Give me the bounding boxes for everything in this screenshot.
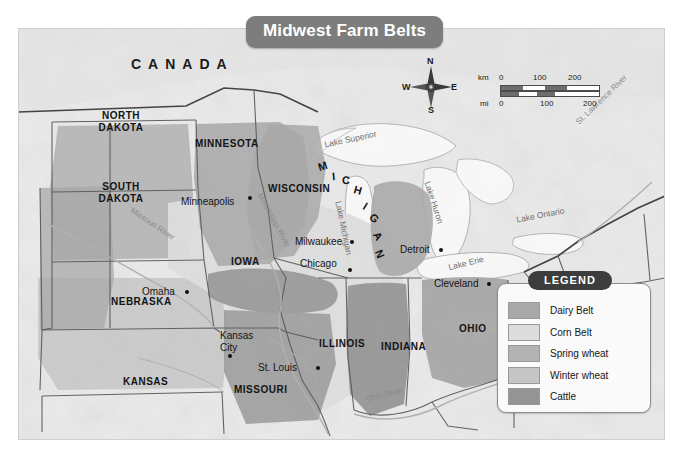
city-dot-omaha [185,290,189,294]
scale-bar-mi [500,91,600,97]
legend-item-winter-wheat[interactable]: Winter wheat [508,365,644,387]
legend-label-1: Corn Belt [550,327,592,338]
scale-tick-km-200: 200 [568,73,581,82]
city-dot-st-louis [316,366,320,370]
legend-swatch-1 [508,324,540,341]
scale-unit-mi: mi [480,99,488,108]
scale-tick-mi-200: 200 [583,99,596,108]
scale-tick-km-0: 0 [499,73,503,82]
legend-panel[interactable]: LEGEND Dairy BeltCorn BeltSpring wheatWi… [497,283,651,413]
city-dot-milwaukee [350,240,354,244]
legend-label-0: Dairy Belt [550,305,593,316]
compass-rose: N E S W [402,58,460,116]
city-dot-chicago [348,268,352,272]
legend-swatch-2 [508,345,540,362]
scale-tick-mi-100: 100 [540,99,553,108]
compass-label-west: W [402,82,411,92]
scale-tick-km-100: 100 [533,73,546,82]
legend-items: Dairy BeltCorn BeltSpring wheatWinter wh… [508,300,644,408]
city-dot-kansas-city [228,354,232,358]
compass-label-north: N [427,56,434,66]
legend-swatch-0 [508,302,540,319]
scale-unit-km: km [478,73,489,82]
legend-title: LEGEND [528,271,612,290]
legend-swatch-4 [508,388,540,405]
city-dot-detroit [439,248,443,252]
city-dot-minneapolis [248,196,252,200]
legend-item-spring-wheat[interactable]: Spring wheat [508,343,644,365]
legend-label-3: Winter wheat [550,370,608,381]
legend-label-2: Spring wheat [550,348,608,359]
legend-label-4: Cattle [550,391,576,402]
compass-label-east: E [451,82,457,92]
legend-item-cattle[interactable]: Cattle [508,386,644,408]
city-dot-cleveland [487,282,491,286]
legend-swatch-3 [508,367,540,384]
legend-item-dairy-belt[interactable]: Dairy Belt [508,300,644,322]
legend-item-corn-belt[interactable]: Corn Belt [508,322,644,344]
map-title: Midwest Farm Belts [246,16,443,48]
map-screenshot: CANADA NORTH DAKOTA SOUTH DAKOTA MINNESO… [0,0,683,468]
compass-label-south: S [428,105,434,115]
scale-tick-mi-0: 0 [499,99,503,108]
